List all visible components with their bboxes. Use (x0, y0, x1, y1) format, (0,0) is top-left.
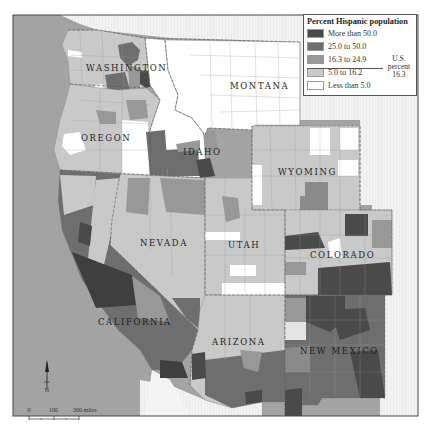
wy-county-white-2 (340, 128, 358, 150)
co-county-mid (372, 220, 392, 248)
or-county-white-2 (122, 120, 150, 175)
wy-county-white-4 (252, 165, 262, 205)
nv-county-mid (126, 178, 150, 215)
ut-county-white-2 (230, 265, 256, 276)
scale-tick-200: 200 miles (73, 407, 97, 413)
az-county-darkest (245, 390, 262, 404)
label-montana: MONTANA (230, 81, 289, 91)
scale-tick-0: 0 (28, 407, 31, 413)
label-arizona: ARIZONA (211, 337, 266, 347)
wy-county-white-3 (338, 160, 358, 176)
nm-county-white (285, 322, 306, 340)
legend-label: Less than 5.0 (328, 81, 370, 90)
label-new-mexico: NEW MEXICO (300, 346, 379, 356)
legend-swatch (307, 68, 324, 77)
legend-label: 16.3 to 24.9 (328, 55, 366, 64)
label-washington: WASHINGTON (86, 63, 167, 73)
legend-item: 25.0 to 50.0 (307, 40, 413, 53)
nm-county-light (285, 298, 306, 322)
scale-tick-100: 100 (49, 407, 58, 413)
label-wyoming: WYOMING (278, 167, 337, 177)
legend-swatch (307, 42, 324, 51)
us-percent-note: U.S. percent 16.3 (384, 55, 414, 79)
label-idaho: IDAHO (183, 147, 222, 157)
nv-county-mid-2 (160, 178, 205, 215)
az-county-darkest-2 (192, 352, 206, 380)
legend-label: 5.0 to 16.2 (328, 68, 362, 77)
ut-county-white (205, 232, 240, 240)
legend-swatch (307, 55, 324, 64)
ca-county-darkest-3 (78, 222, 92, 246)
north-label: N (45, 387, 50, 393)
legend-swatch (307, 81, 324, 90)
label-california: CALIFORNIA (98, 317, 172, 327)
legend-swatch (307, 29, 324, 38)
ut-county-white-3 (222, 283, 285, 295)
legend: Percent Hispanic population More than 50… (303, 14, 417, 96)
legend-label: 25.0 to 50.0 (328, 42, 366, 51)
nm-county-darkest-4 (285, 388, 302, 416)
legend-title: Percent Hispanic population (307, 17, 413, 26)
legend-item: Less than 5.0 (307, 79, 413, 92)
label-colorado: COLORADO (310, 250, 375, 260)
us-percent-divider (307, 68, 383, 69)
label-nevada: NEVADA (140, 238, 188, 248)
us-note-line3: 16.3 (384, 71, 414, 79)
legend-item: More than 50.0 (307, 27, 413, 40)
co-county-mid-2 (285, 262, 306, 275)
label-oregon: OREGON (81, 133, 131, 143)
label-utah: UTAH (228, 240, 260, 250)
legend-label: More than 50.0 (328, 29, 377, 38)
co-county-dark (345, 214, 368, 236)
